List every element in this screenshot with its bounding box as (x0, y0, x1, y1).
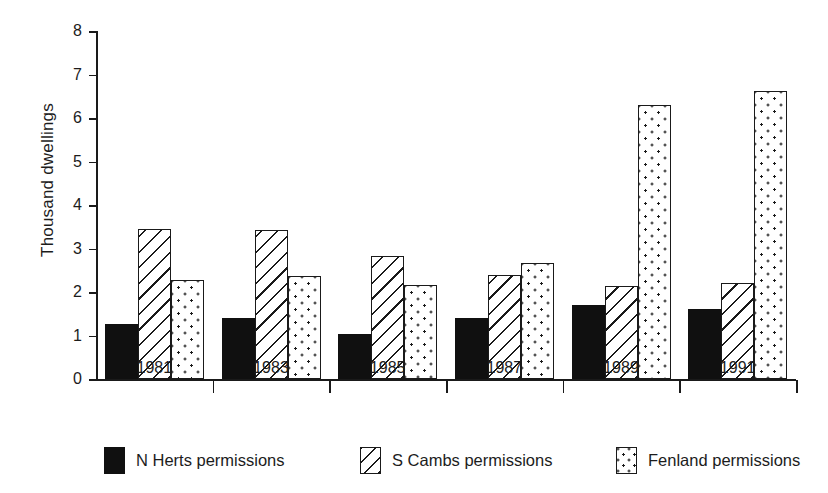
y-tick-label: 6 (52, 108, 82, 128)
y-tick-3: 3 (89, 249, 96, 251)
y-axis-line (96, 31, 98, 380)
x-tick-boundary (563, 380, 565, 393)
legend-item-0: N Herts permissions (104, 445, 285, 475)
x-axis-label-1989: 1989 (563, 358, 680, 378)
y-tick-2: 2 (89, 292, 96, 294)
x-tick-boundary (679, 380, 681, 393)
y-tick-label: 2 (52, 282, 82, 302)
bar (255, 230, 288, 379)
plot-area: 876543210 (96, 31, 796, 379)
legend-item-2: Fenland permissions (616, 445, 800, 475)
y-tick-8: 8 (89, 31, 96, 33)
y-tick-4: 4 (89, 205, 96, 207)
y-tick-label: 7 (52, 65, 82, 85)
y-tick-6: 6 (89, 118, 96, 120)
chart-legend: N Herts permissionsS Cambs permissionsFe… (96, 445, 802, 479)
y-tick-label: 4 (52, 195, 82, 215)
y-tick-label: 1 (52, 326, 82, 346)
x-tick-boundary (446, 380, 448, 393)
legend-swatch-icon (104, 447, 125, 474)
x-axis-label-1985: 1985 (329, 358, 446, 378)
x-axis-label-1991: 1991 (679, 358, 796, 378)
legend-swatch-icon (360, 447, 381, 474)
bar (638, 105, 671, 379)
x-axis-label-1987: 1987 (446, 358, 563, 378)
y-tick-label: 8 (52, 21, 82, 41)
bar-chart: Thousand dwellings 876543210 19811983198… (0, 0, 828, 493)
bar (754, 91, 787, 379)
legend-label: S Cambs permissions (392, 450, 552, 470)
x-axis-label-1981: 1981 (96, 358, 213, 378)
y-tick-1: 1 (89, 336, 96, 338)
y-tick-5: 5 (89, 162, 96, 164)
bar (138, 229, 171, 380)
legend-label: N Herts permissions (136, 450, 285, 470)
y-tick-label: 5 (52, 152, 82, 172)
x-tick-boundary (796, 380, 798, 393)
x-tick-boundary (329, 380, 331, 393)
x-tick-boundary (213, 380, 215, 393)
x-axis-label-1983: 1983 (213, 358, 330, 378)
y-tick-0: 0 (89, 379, 96, 381)
legend-swatch-icon (616, 447, 637, 474)
y-tick-label: 3 (52, 239, 82, 259)
legend-item-1: S Cambs permissions (360, 445, 552, 475)
y-tick-7: 7 (89, 75, 96, 77)
y-tick-label: 0 (52, 369, 82, 389)
legend-label: Fenland permissions (648, 450, 800, 470)
